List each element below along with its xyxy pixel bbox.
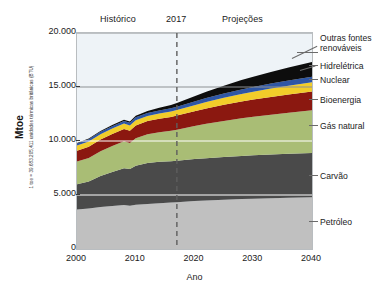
y-tick-mark-5000 — [76, 194, 80, 195]
legend-item-outras-fontes-renovaveis: Outras fontesrenováveis — [320, 34, 372, 53]
y-axis-subnote-wrap: 1 toe = 39.683.205,411 unidades térmicas… — [19, 52, 37, 202]
legend-leader-gas-natural — [309, 125, 318, 126]
y-tick-label-5000: 5.000 — [40, 188, 76, 198]
legend-label-bioenergia: Bioenergia — [320, 96, 361, 106]
legend-label-petroleo: Petróleo — [320, 218, 352, 228]
annotation-historico: Histórico — [100, 14, 136, 24]
legend-label-gas-natural: Gás natural — [320, 122, 364, 132]
legend-label2-outras-fontes-renovaveis: renováveis — [320, 44, 372, 54]
y-tick-mark-10000 — [76, 140, 80, 141]
annotation-projecoes: Projeções — [222, 14, 263, 24]
y-tick-label-15000: 15.000 — [40, 80, 76, 90]
legend-leader-carvao — [309, 175, 318, 176]
legend-item-petroleo: Petróleo — [320, 218, 352, 228]
y-axis-ticks: 05.00010.00015.00020.000 — [34, 32, 76, 250]
legend-item-carvao: Carvão — [320, 172, 348, 182]
x-axis-label: Ano — [76, 272, 313, 282]
y-tick-mark-15000 — [76, 86, 80, 87]
y-tick-label-10000: 10.000 — [40, 134, 76, 144]
legend-item-nuclear: Nuclear — [320, 76, 350, 86]
legend-leader-bioenergia — [309, 99, 318, 100]
legend-label-nuclear: Nuclear — [320, 76, 350, 86]
area-series-group — [77, 62, 312, 249]
legend-item-bioenergia: Bioenergia — [320, 96, 361, 106]
annotation-year-2017: 2017 — [166, 14, 186, 24]
legend-leader-nuclear — [309, 79, 318, 80]
legend-item-gas-natural: Gás natural — [320, 122, 364, 132]
x-tick-label-2000: 2000 — [66, 253, 86, 263]
legend-item-hidreletrica: Hidrelétrica — [320, 62, 363, 72]
legend-label-hidreletrica: Hidrelétrica — [320, 62, 363, 72]
legend-leader-petroleo — [309, 221, 318, 222]
x-tick-label-2010: 2010 — [125, 253, 145, 263]
x-tick-label-2030: 2030 — [242, 253, 262, 263]
y-axis-unit-note: 1 toe = 39.683.205,411 unidades térmicas… — [29, 66, 34, 189]
x-tick-label-2040: 2040 — [301, 253, 321, 263]
x-tick-label-2020: 2020 — [183, 253, 203, 263]
legend-label-carvao: Carvão — [320, 172, 348, 182]
x-axis-ticks: 20002010202020302040 — [76, 252, 313, 268]
plot-area — [76, 32, 313, 250]
stacked-area-svg — [77, 33, 312, 249]
y-tick-label-20000: 20.000 — [40, 26, 76, 36]
energy-outlook-area-chart: Histórico 2017 Projeções 05.00010.00015.… — [0, 0, 391, 300]
y-tick-label-0: 0 — [40, 242, 76, 252]
